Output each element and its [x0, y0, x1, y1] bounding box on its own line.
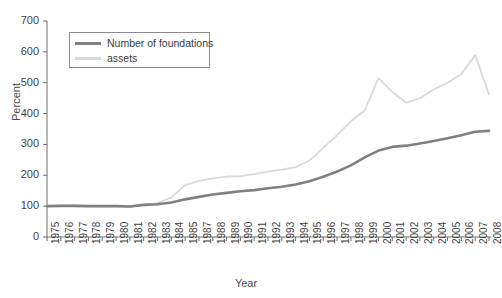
y-tick-label: 100 — [5, 200, 39, 211]
y-tick-label: 0 — [5, 231, 39, 242]
x-tick-label: 2005 — [452, 222, 462, 244]
legend: Number of foundations assets — [69, 32, 210, 68]
y-tick-label: 300 — [5, 138, 39, 149]
x-tick-label: 1996 — [327, 222, 337, 244]
x-tick-label: 1984 — [175, 222, 185, 244]
x-tick-label: 1977 — [79, 222, 89, 244]
x-tick-label: 1980 — [120, 222, 130, 244]
x-tick-label: 1989 — [231, 222, 241, 244]
x-tick-label: 2004 — [438, 222, 448, 244]
x-tick-label: 1979 — [106, 222, 116, 244]
x-tick-label: 2007 — [479, 222, 489, 244]
x-tick-label: 2000 — [383, 222, 393, 244]
x-tick-label: 2003 — [424, 222, 434, 244]
x-tick-label: 1999 — [369, 222, 379, 244]
y-tick-label: 200 — [5, 169, 39, 180]
x-tick-label: 1990 — [244, 222, 254, 244]
x-tick-label: 1997 — [341, 222, 351, 244]
x-tick-label: 1975 — [51, 222, 61, 244]
x-tick-label: 2001 — [396, 222, 406, 244]
legend-swatch-assets — [75, 57, 101, 60]
x-tick-label: 1987 — [203, 222, 213, 244]
x-tick-label: 1988 — [217, 222, 227, 244]
x-tick-label: 2002 — [410, 222, 420, 244]
legend-item-assets: assets — [75, 51, 137, 65]
legend-label-number-of-foundations: Number of foundations — [107, 37, 213, 49]
x-axis-title-text: Year — [235, 277, 257, 289]
x-tick-label: 1981 — [134, 222, 144, 244]
legend-label-assets: assets — [107, 52, 137, 64]
y-tick-label: 500 — [5, 77, 39, 88]
y-tick-label: 600 — [5, 46, 39, 57]
x-tick-label: 1995 — [313, 222, 323, 244]
y-tick-label: 700 — [5, 15, 39, 26]
x-tick-label: 1992 — [272, 222, 282, 244]
x-tick-label: 1976 — [65, 222, 75, 244]
x-tick-label: 1978 — [92, 222, 102, 244]
y-tick-label: 400 — [5, 108, 39, 119]
x-tick-label: 1993 — [286, 222, 296, 244]
legend-item-number-of-foundations: Number of foundations — [75, 36, 213, 50]
x-tick-label: 1994 — [300, 222, 310, 244]
x-tick-label: 2008 — [493, 222, 502, 244]
chart-container: Percent 0100200300400500600700 197519761… — [0, 0, 502, 298]
x-tick-label: 1991 — [258, 222, 268, 244]
x-tick-label: 1983 — [162, 222, 172, 244]
x-axis-title: Year — [0, 277, 502, 289]
x-tick-label: 1998 — [355, 222, 365, 244]
x-tick-label: 2006 — [465, 222, 475, 244]
x-tick-label: 1985 — [189, 222, 199, 244]
legend-swatch-number-of-foundations — [75, 42, 101, 45]
x-tick-label: 1982 — [148, 222, 158, 244]
